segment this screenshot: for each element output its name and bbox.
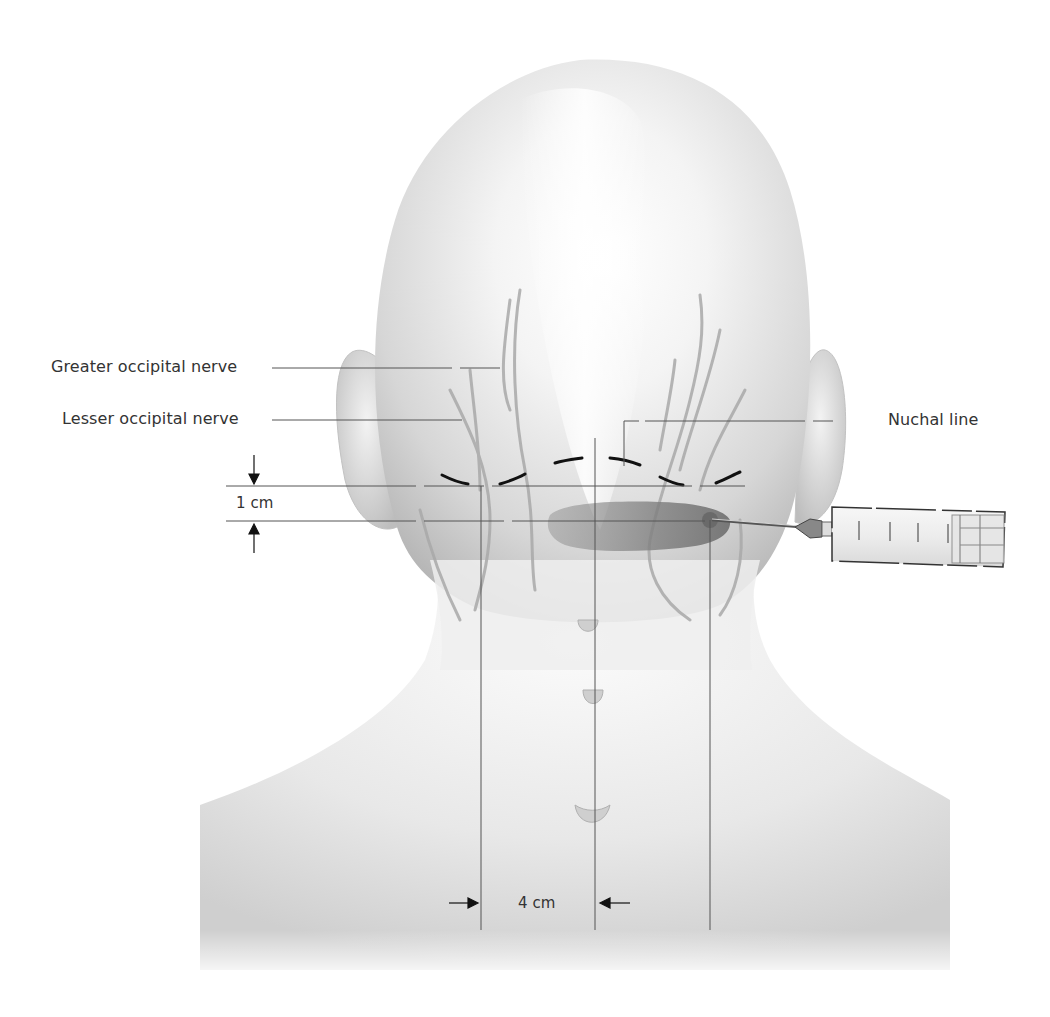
vertical-dimension-label: 1 cm — [236, 494, 274, 512]
nuchal-line-label: Nuchal line — [888, 410, 978, 429]
greater-occipital-nerve-label: Greater occipital nerve — [51, 357, 237, 376]
lesser-occipital-nerve-label: Lesser occipital nerve — [62, 409, 239, 428]
horizontal-dimension-label: 4 cm — [518, 894, 556, 912]
injection-zone — [548, 502, 730, 551]
illustration — [0, 0, 1050, 1017]
occipital-nerve-block-diagram: Greater occipital nerve Lesser occipital… — [0, 0, 1050, 1017]
